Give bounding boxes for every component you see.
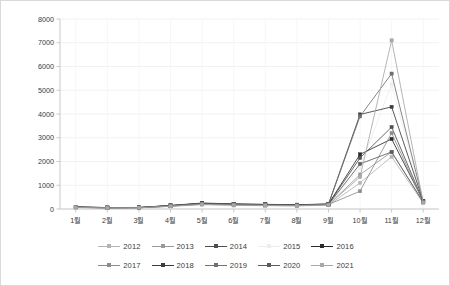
chart-legend: 20122013201420152016 2017201820192020202… — [1, 237, 450, 275]
legend-marker-icon — [205, 243, 227, 251]
legend-label: 2015 — [283, 243, 300, 251]
legend-row-2: 20172018201920202021 — [1, 256, 450, 275]
series-2017 — [74, 131, 425, 209]
y-axis-tick-labels: 010002000300040005000600070008000 — [38, 15, 54, 214]
chart-figure: 010002000300040005000600070008000 1월2월3월… — [0, 0, 450, 286]
series-2019 — [74, 72, 425, 209]
svg-text:5000: 5000 — [38, 86, 54, 95]
legend-label: 2013 — [177, 243, 194, 251]
plot-area: 010002000300040005000600070008000 1월2월3월… — [1, 1, 450, 233]
legend-marker-icon — [311, 262, 333, 270]
svg-text:4월: 4월 — [165, 216, 176, 225]
legend-item-2017[interactable]: 2017 — [98, 262, 140, 270]
legend-label: 2021 — [336, 262, 353, 270]
legend-item-2021[interactable]: 2021 — [311, 262, 353, 270]
legend-marker-icon — [258, 243, 280, 251]
legend-item-2018[interactable]: 2018 — [152, 262, 194, 270]
legend-label: 2018 — [177, 262, 194, 270]
svg-text:2000: 2000 — [38, 157, 54, 166]
legend-marker-icon — [98, 262, 120, 270]
svg-text:9월: 9월 — [323, 216, 334, 225]
svg-text:0: 0 — [50, 205, 54, 214]
legend-marker-icon — [258, 262, 280, 270]
legend-label: 2020 — [283, 262, 300, 270]
svg-text:11월: 11월 — [384, 216, 398, 225]
series-2018 — [74, 105, 425, 209]
legend-marker-icon — [311, 243, 333, 251]
legend-item-2020[interactable]: 2020 — [258, 262, 300, 270]
gridlines — [60, 19, 439, 209]
svg-text:8월: 8월 — [291, 216, 302, 225]
svg-text:12월: 12월 — [416, 216, 431, 225]
legend-marker-icon — [205, 262, 227, 270]
legend-item-2012[interactable]: 2012 — [98, 243, 140, 251]
svg-text:2월: 2월 — [102, 216, 113, 225]
legend-item-2015[interactable]: 2015 — [258, 243, 300, 251]
legend-marker-icon — [98, 243, 120, 251]
series-2020 — [74, 150, 425, 209]
legend-row-1: 20122013201420152016 — [1, 237, 450, 256]
svg-text:8000: 8000 — [38, 15, 54, 24]
legend-marker-icon — [152, 262, 174, 270]
svg-text:6월: 6월 — [228, 216, 239, 225]
svg-text:5월: 5월 — [197, 216, 208, 225]
svg-text:10월: 10월 — [353, 216, 368, 225]
legend-label: 2019 — [230, 262, 247, 270]
x-axis-tick-labels: 1월2월3월4월5월6월7월8월9월10월11월12월 — [70, 216, 430, 225]
series-2021 — [74, 39, 425, 210]
legend-item-2016[interactable]: 2016 — [311, 243, 353, 251]
axes — [57, 19, 440, 213]
svg-text:1월: 1월 — [70, 216, 81, 225]
data-series-group — [74, 39, 425, 210]
svg-text:1000: 1000 — [38, 181, 54, 190]
legend-marker-icon — [152, 243, 174, 251]
svg-text:3000: 3000 — [38, 133, 54, 142]
line-chart-canvas: 010002000300040005000600070008000 1월2월3월… — [1, 1, 450, 233]
legend-item-2014[interactable]: 2014 — [205, 243, 247, 251]
legend-label: 2014 — [230, 243, 247, 251]
legend-item-2013[interactable]: 2013 — [152, 243, 194, 251]
svg-text:4000: 4000 — [38, 110, 54, 119]
svg-text:7000: 7000 — [38, 38, 54, 47]
legend-item-2019[interactable]: 2019 — [205, 262, 247, 270]
svg-text:3월: 3월 — [133, 216, 144, 225]
legend-label: 2016 — [336, 243, 353, 251]
svg-text:6000: 6000 — [38, 62, 54, 71]
svg-text:7월: 7월 — [260, 216, 271, 225]
series-2012 — [74, 155, 425, 210]
legend-label: 2012 — [123, 243, 140, 251]
legend-label: 2017 — [123, 262, 140, 270]
